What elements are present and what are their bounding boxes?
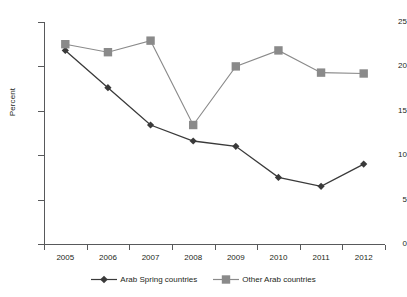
y-tick-label: 25 xyxy=(373,18,407,26)
y-axis-title: Percent xyxy=(8,72,17,132)
y-tick-label: 0 xyxy=(373,240,407,248)
diamond-marker xyxy=(360,160,367,167)
chart-figure: Percent 0510152025 200520062007200820092… xyxy=(0,0,407,297)
square-marker xyxy=(359,69,367,77)
x-tick-label: 2009 xyxy=(214,253,258,262)
x-tick-mark xyxy=(129,245,130,250)
x-tick-label: 2008 xyxy=(171,253,215,262)
x-tick-mark xyxy=(215,245,216,250)
square-marker xyxy=(274,46,282,54)
square-marker xyxy=(232,62,240,70)
x-tick-label: 2005 xyxy=(43,253,87,262)
y-tick-mark xyxy=(38,111,44,112)
square-marker xyxy=(104,48,112,56)
y-tick-mark xyxy=(38,66,44,67)
x-tick-mark xyxy=(385,245,386,250)
square-marker xyxy=(146,36,154,44)
series-line xyxy=(65,41,363,125)
x-tick-label: 2011 xyxy=(299,253,343,262)
legend-item-arab-spring[interactable]: Arab Spring countries xyxy=(91,274,197,285)
x-tick-mark xyxy=(87,245,88,250)
x-tick-label: 2007 xyxy=(129,253,173,262)
legend-label: Other Arab countries xyxy=(242,275,315,284)
y-tick-mark xyxy=(38,200,44,201)
legend-diamond-icon xyxy=(91,274,117,285)
x-tick-label: 2010 xyxy=(256,253,300,262)
y-tick-label: 15 xyxy=(373,107,407,115)
y-tick-label: 20 xyxy=(373,62,407,70)
diamond-marker xyxy=(104,84,111,91)
series-arab-spring xyxy=(62,47,368,190)
legend-label: Arab Spring countries xyxy=(120,275,197,284)
diamond-marker xyxy=(62,47,69,54)
series-line xyxy=(65,50,363,186)
square-marker xyxy=(61,40,69,48)
diamond-marker xyxy=(190,137,197,144)
diamond-marker xyxy=(317,183,324,190)
x-tick-mark xyxy=(172,245,173,250)
square-marker xyxy=(317,68,325,76)
square-marker xyxy=(189,121,197,129)
y-tick-mark xyxy=(38,155,44,156)
y-tick-mark xyxy=(38,22,44,23)
diamond-marker xyxy=(275,174,282,181)
diamond-marker xyxy=(147,121,154,128)
series-other-arab xyxy=(61,36,368,129)
y-tick-label: 5 xyxy=(373,196,407,204)
legend-square-icon xyxy=(213,274,239,285)
x-tick-mark xyxy=(44,245,45,250)
diamond-marker xyxy=(232,143,239,150)
x-tick-mark xyxy=(342,245,343,250)
legend-item-other-arab[interactable]: Other Arab countries xyxy=(213,274,315,285)
x-tick-mark xyxy=(257,245,258,250)
x-tick-label: 2006 xyxy=(86,253,130,262)
y-tick-label: 10 xyxy=(373,151,407,159)
y-axis-line xyxy=(44,22,45,245)
x-tick-mark xyxy=(300,245,301,250)
chart-legend: Arab Spring countriesOther Arab countrie… xyxy=(0,274,407,285)
x-tick-label: 2012 xyxy=(342,253,386,262)
